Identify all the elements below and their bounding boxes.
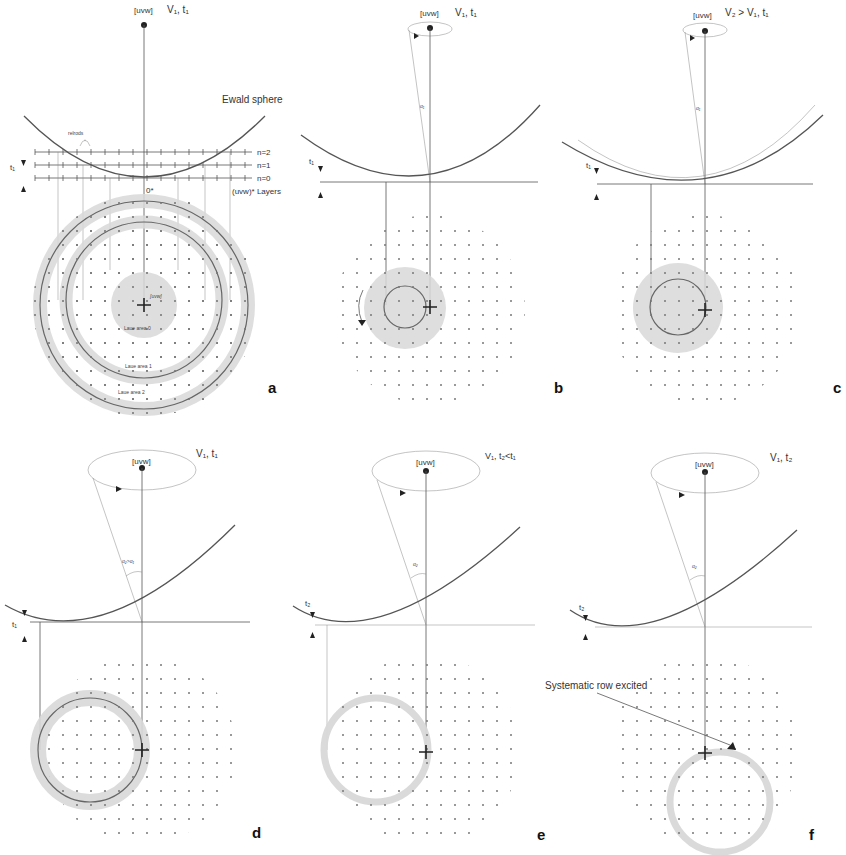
laue-zones: [30, 195, 260, 420]
angle-label: α₂>α₁: [122, 558, 135, 564]
reciprocal-lattice: [590, 645, 840, 855]
systematic-row-annotation: Systematic row excited: [545, 680, 647, 691]
zone-axis-label: [uvw]: [693, 11, 712, 20]
thickness-label: t₁: [10, 163, 15, 172]
panel-letter: e: [537, 826, 545, 843]
thickness-arrow-down-icon: [318, 166, 323, 172]
reciprocal-lattice: [28, 645, 258, 850]
thickness-arrow-up-icon: [21, 186, 26, 192]
zone-axis-label: [uvw]: [420, 9, 439, 18]
thickness-arrow-up-icon: [594, 194, 599, 200]
zone-axis-label: [uvw]: [132, 457, 151, 466]
precession-cone-line: [656, 482, 705, 627]
condition-label: V₁, t₂<t₁: [485, 451, 516, 461]
angle-label: α₁: [696, 105, 701, 111]
orbit-direction-arrow-icon: [400, 490, 406, 496]
thickness-label: t₂: [579, 603, 584, 612]
panel-f: [uvw] V₁, t₂ α₂ t₂ Systematic row excite…: [545, 452, 840, 855]
panel-e: [uvw] V₁, t₂<t₁ α₂ t₂ e: [293, 451, 545, 850]
relrods-label: relrods: [68, 130, 84, 136]
zone-axis-label: [uvw]: [134, 6, 153, 15]
precession-cone-line: [377, 480, 426, 625]
thickness-arrow-up-icon: [318, 192, 323, 198]
ewald-sphere-curve-v2: [562, 115, 823, 180]
ewald-sphere-label: Ewald sphere: [222, 94, 283, 105]
panel-letter: b: [554, 379, 563, 396]
panel-letter: d: [252, 824, 261, 841]
layer-label-n2: n=2: [257, 148, 271, 157]
angle-label: α₂: [692, 563, 697, 569]
thickness-arrow-up-icon: [583, 634, 588, 640]
thickness-label: t₂: [305, 599, 310, 608]
condition-label: V₂ > V₁, t₁: [725, 7, 769, 18]
angle-arc: [126, 572, 142, 577]
ewald-sphere-curve: [293, 527, 520, 622]
condition-label: V₁, t₁: [167, 4, 189, 15]
angle-label: α₁: [420, 103, 425, 109]
laue-zone-1-label: Laue area 1: [125, 363, 152, 369]
laue-zone-2-label: Laue area 2: [118, 389, 145, 395]
orbit-direction-arrow-icon: [414, 33, 419, 39]
zone-axis-label: [uvw]: [695, 460, 714, 469]
angle-label: α₂: [413, 561, 418, 567]
thickness-label: t₁: [12, 620, 17, 629]
panel-letter: c: [833, 379, 841, 396]
layers-label: (uvw)* Layers: [232, 187, 281, 196]
condition-label: V₁, t₂: [770, 452, 792, 463]
thickness-label: t₁: [586, 161, 591, 170]
panel-letter: f: [809, 826, 815, 843]
reciprocal-lattice: [310, 645, 545, 850]
reciprocal-lattice: [320, 205, 560, 430]
thickness-arrow-down-icon: [594, 168, 599, 174]
thickness-arrow-up-icon: [22, 636, 27, 642]
zone-axis-label: [uvw]: [416, 458, 435, 467]
panel-d: [uvw] V₁, t₁ α₂>α₁ t₁ d: [5, 448, 261, 850]
angle-arc: [411, 574, 426, 579]
orbit-direction-arrow-icon: [116, 486, 122, 492]
laue-zone-0-label: Laue area 0: [124, 325, 151, 331]
condition-label: V₁, t₁: [196, 448, 218, 459]
precession-cone-line: [93, 478, 142, 622]
thickness-arrow-down-icon: [21, 160, 26, 166]
panel-c: [uvw] V₂ > V₁, t₁ α₁ t₁ c: [562, 7, 841, 430]
layer-label-n0: n=0: [257, 174, 271, 183]
ewald-sphere-curve: [301, 105, 540, 176]
center-zone-label: [uvw]: [149, 293, 162, 299]
angle-arc: [690, 576, 705, 581]
thickness-arrow-up-icon: [310, 632, 315, 638]
precession-cone-line: [685, 32, 705, 184]
condition-label: V₁, t₁: [455, 7, 477, 18]
origin-label: 0*: [146, 186, 154, 195]
ewald-sphere-curve: [24, 116, 265, 177]
reciprocal-lattice: [595, 205, 840, 430]
panel-b: [uvw] V₁, t₁ α₁ t₁ b: [301, 7, 563, 430]
ewald-sphere-curve: [5, 525, 235, 621]
orbit-direction-arrow-icon: [679, 492, 685, 498]
panel-a: [uvw] V₁, t₁ Ewald sphere relrods n=2 n=…: [10, 4, 283, 420]
layer-label-n1: n=1: [257, 161, 271, 170]
relrods-pointer: [80, 140, 90, 146]
thickness-label: t₁: [309, 157, 314, 166]
ewald-sphere-curve: [570, 530, 797, 626]
panel-letter: a: [268, 379, 277, 396]
